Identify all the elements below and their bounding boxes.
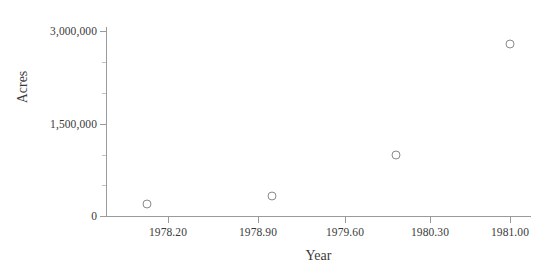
x-tick-label: 1980.30 xyxy=(411,226,449,238)
y-minor-tick xyxy=(102,62,106,63)
data-point xyxy=(392,151,401,160)
y-tick xyxy=(100,124,106,125)
y-minor-tick xyxy=(102,185,106,186)
x-tick xyxy=(258,217,259,223)
y-tick-label: 1,500,000 xyxy=(50,118,97,130)
y-tick-label: 0 xyxy=(91,210,97,222)
x-tick-label: 1979.60 xyxy=(326,226,364,238)
x-axis-line xyxy=(106,216,531,217)
y-tick-label: 3,000,000 xyxy=(50,25,97,37)
x-tick-label: 1981.00 xyxy=(491,226,529,238)
x-tick xyxy=(345,217,346,223)
y-tick xyxy=(100,31,106,32)
x-tick-label: 1978.20 xyxy=(149,226,187,238)
x-tick xyxy=(168,217,169,223)
x-axis-title: Year xyxy=(106,248,531,264)
y-minor-tick xyxy=(102,155,106,156)
scatter-chart: 01,500,0003,000,000 Year Acres 1978.2019… xyxy=(0,0,560,280)
data-point xyxy=(506,40,515,49)
y-axis-line xyxy=(106,27,107,217)
x-tick-label: 1978.90 xyxy=(239,226,277,238)
y-tick xyxy=(100,216,106,217)
data-point xyxy=(268,192,277,201)
y-axis-title: Acres xyxy=(15,42,31,132)
x-tick xyxy=(430,217,431,223)
x-tick xyxy=(510,217,511,223)
data-point xyxy=(143,200,152,209)
y-minor-tick xyxy=(102,93,106,94)
